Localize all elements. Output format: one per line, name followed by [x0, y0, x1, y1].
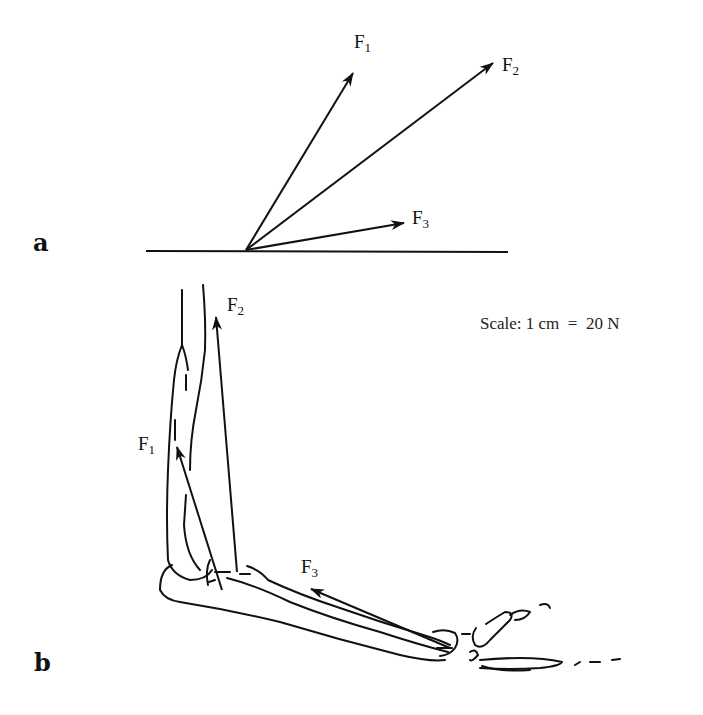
figure-drawing — [0, 0, 703, 715]
force-vector-figure: a b F1 F2 F3 F1 F2 F3 Scale: 1 cm = 20 N — [0, 0, 703, 715]
force-label-f2-b: F2 — [227, 295, 244, 317]
force-f2-arrow-b — [216, 317, 237, 572]
panel-b-label: b — [34, 648, 51, 677]
force-f1-arrow-a — [246, 73, 353, 250]
baseline — [146, 251, 508, 252]
force-label-f2-a: F2 — [502, 55, 519, 77]
force-label-f3-a: F3 — [412, 208, 429, 230]
force-f2-arrow-a — [246, 63, 493, 250]
scale-note: Scale: 1 cm = 20 N — [480, 314, 619, 334]
force-label-f1-b: F1 — [138, 434, 155, 456]
force-label-f3-b: F3 — [301, 557, 318, 579]
force-label-f1-a: F1 — [354, 32, 371, 54]
force-f3-arrow-b — [311, 589, 450, 648]
panel-a-vectors — [146, 63, 508, 252]
force-f3-arrow-a — [246, 223, 404, 250]
panel-a-label: a — [33, 228, 49, 257]
